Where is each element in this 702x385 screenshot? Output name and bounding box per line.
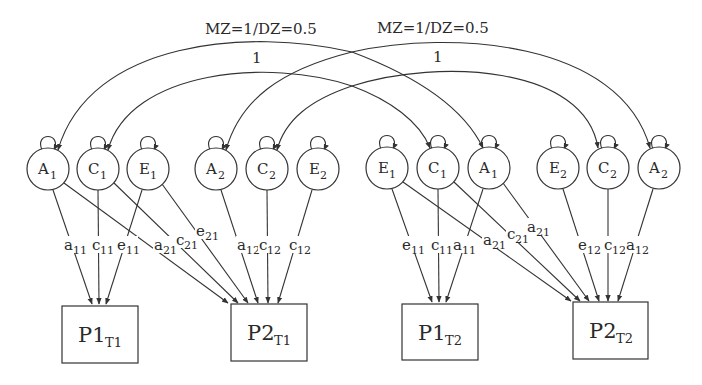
arc-C2 [277,86,352,150]
svg-text:a: a [237,236,246,254]
arc-A1 [58,42,352,150]
observed-P2-T2: P2T2 [573,302,648,359]
arc-A2 [226,52,352,150]
label-e21-t1: e21 [195,222,219,243]
svg-text:A: A [478,159,490,177]
svg-text:11: 11 [73,244,87,257]
svg-text:21: 21 [184,239,198,252]
label-a12-t2: a12 [625,236,649,257]
latent-C2-t2: C2 [587,147,629,189]
svg-text:1: 1 [491,168,498,181]
label-c12-t1a: c12 [258,236,281,257]
svg-text:a: a [483,231,492,249]
svg-text:a: a [527,218,536,236]
latent-A1-t2: A1 [468,147,510,189]
latent-E2-t1: E2 [297,148,339,190]
observed-P1-T1: P1T1 [62,306,138,363]
label-a21-t2a: a21 [482,231,506,252]
svg-text:a: a [64,236,73,254]
svg-text:C: C [428,159,439,177]
latent-nodes: A1 C1 E1 A2 C2 E2 E1 C1 A1 E2 C2 A2 [27,147,680,190]
label-a21-t1: a21 [153,236,177,257]
arc-A1-right [352,52,483,148]
arc-A2-right [352,42,650,148]
svg-text:P2: P2 [589,319,617,343]
svg-text:e: e [196,222,205,240]
svg-text:11: 11 [462,244,476,257]
covariance-arcs: MZ=1/DZ=0.5 1 MZ=1/DZ=0.5 1 [58,19,650,150]
svg-text:T2: T2 [445,333,462,348]
svg-text:A: A [648,159,660,177]
latent-A2-t1: A2 [195,148,237,190]
label-c11-t1: c11 [91,236,114,257]
svg-text:1: 1 [50,169,57,182]
arc-label-left-one: 1 [252,49,262,67]
svg-text:21: 21 [163,244,177,257]
svg-text:a: a [453,236,462,254]
svg-text:2: 2 [560,168,567,181]
svg-text:21: 21 [205,230,219,243]
svg-text:E: E [139,160,150,178]
latent-A2-t2: A2 [638,147,680,189]
label-c12-t1b: c12 [288,236,311,257]
svg-text:P2: P2 [247,321,275,345]
label-e12-t2: e12 [577,236,601,257]
variance-loops [41,136,667,151]
svg-text:T2: T2 [616,331,633,346]
latent-E1-t2: E1 [366,147,408,189]
arc-label-right-one: 1 [433,48,443,66]
svg-text:2: 2 [218,169,225,182]
svg-text:1: 1 [440,168,447,181]
svg-text:T1: T1 [105,335,122,350]
twin-ace-path-diagram: MZ=1/DZ=0.5 1 MZ=1/DZ=0.5 1 [0,0,702,385]
svg-text:a: a [626,236,635,254]
svg-text:12: 12 [267,244,281,257]
latent-C1-t2: C1 [417,147,459,189]
latent-C1-t1: C1 [77,148,119,190]
label-e11-t1: e11 [116,236,140,257]
arc-C1-right [352,86,430,148]
observed-P1-T2: P1T2 [402,304,478,360]
arc-label-left-mzdz: MZ=1/DZ=0.5 [205,20,317,38]
label-a11-t2: a11 [452,236,476,257]
svg-text:T1: T1 [274,333,291,348]
svg-text:1: 1 [100,169,107,182]
svg-text:E: E [549,159,560,177]
path-edges [53,182,653,304]
label-c21-t2: c21 [506,225,529,246]
label-c12-t2: c12 [603,236,626,257]
label-c11-t2: c11 [430,236,453,257]
label-a21-t2b: a21 [526,218,550,239]
latent-E1-t1: E1 [127,148,169,190]
label-a11-t1: a11 [63,236,87,257]
svg-text:e: e [578,236,587,254]
observed-nodes: P1T1 P2T1 P1T2 P2T2 [62,302,648,363]
svg-text:e: e [117,236,126,254]
label-c21-t1: c21 [175,231,198,252]
svg-text:E: E [309,160,320,178]
svg-text:21: 21 [492,239,506,252]
svg-text:11: 11 [100,244,114,257]
svg-text:11: 11 [411,244,425,257]
svg-text:1: 1 [389,168,396,181]
svg-text:a: a [154,236,163,254]
svg-text:21: 21 [536,226,550,239]
svg-text:12: 12 [587,244,601,257]
label-e11-t2: e11 [401,236,425,257]
observed-P2-T1: P2T1 [231,304,307,361]
svg-text:C: C [598,159,609,177]
latent-E2-t2: E2 [537,147,579,189]
latent-A1-t1: A1 [27,148,69,190]
svg-text:12: 12 [635,244,649,257]
svg-text:e: e [402,236,411,254]
svg-text:1: 1 [150,169,157,182]
svg-text:A: A [205,160,217,178]
svg-text:C: C [88,160,99,178]
arc-label-right-mzdz: MZ=1/DZ=0.5 [377,19,489,37]
svg-text:12: 12 [612,244,626,257]
svg-text:C: C [257,160,268,178]
svg-text:12: 12 [246,244,260,257]
svg-text:P1: P1 [78,323,106,347]
svg-text:12: 12 [297,244,311,257]
svg-text:2: 2 [269,169,276,182]
